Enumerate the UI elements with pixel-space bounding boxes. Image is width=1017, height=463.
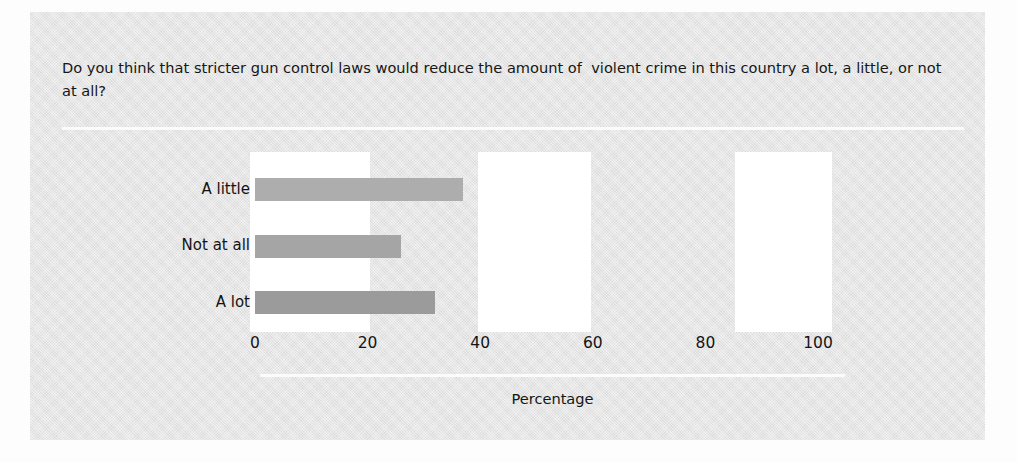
xtick-100: 100 — [803, 334, 833, 352]
bar-not-at-all — [255, 235, 401, 258]
scan-artifact-middle — [478, 152, 591, 332]
category-label-not-at-all: Not at all — [182, 236, 250, 254]
xtick-40: 40 — [470, 334, 490, 352]
axis-divider — [260, 374, 845, 377]
category-label-a-lot: A lot — [216, 293, 250, 311]
bar-chart: A little Not at all A lot 0 20 40 60 80 … — [30, 12, 985, 440]
bar-a-lot — [255, 291, 435, 314]
xtick-0: 0 — [250, 334, 260, 352]
xtick-60: 60 — [583, 334, 603, 352]
bar-a-little — [255, 178, 463, 201]
scanned-page: Do you think that stricter gun control l… — [0, 0, 1017, 463]
category-axis: A little Not at all A lot — [150, 12, 250, 440]
x-axis-title: Percentage — [260, 390, 845, 407]
category-label-a-little: A little — [201, 180, 250, 198]
scan-artifact-right — [735, 152, 832, 332]
xtick-20: 20 — [358, 334, 378, 352]
figure-panel: Do you think that stricter gun control l… — [30, 12, 985, 440]
xtick-80: 80 — [696, 334, 716, 352]
